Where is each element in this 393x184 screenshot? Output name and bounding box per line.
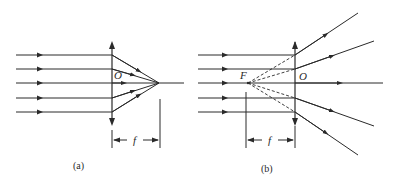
refracted-rays-b	[295, 13, 383, 155]
caption-a: (a)	[73, 160, 84, 172]
lens-top-arrow-icon	[292, 41, 298, 49]
focus-label-b: F	[239, 69, 247, 81]
focal-length-label-b: f	[268, 134, 273, 146]
panel-a: O f (a)	[16, 41, 184, 172]
focal-point-b	[247, 82, 249, 84]
refracted-rays-a	[112, 55, 184, 112]
focal-length-label-a: f	[133, 134, 138, 146]
caption-b: (b)	[261, 163, 273, 175]
lens-center-label-a: O	[114, 69, 122, 81]
lens-bottom-arrow-icon	[292, 118, 298, 126]
lens-bottom-arrow-icon	[109, 118, 115, 126]
lens-center-label-b: O	[299, 70, 307, 82]
incoming-rays-a	[16, 53, 112, 115]
focal-length-dimension-b: f	[246, 92, 295, 148]
lens-top-arrow-icon	[109, 41, 115, 49]
focal-length-dimension-a: f	[112, 99, 160, 148]
optics-diagram: O f (a)	[0, 0, 393, 184]
panel-b: F O f (b)	[198, 13, 383, 175]
